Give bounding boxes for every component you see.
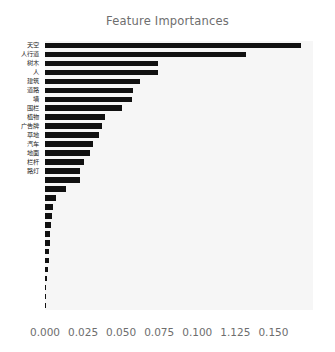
y-axis-label: 路灯: [27, 168, 39, 175]
bar: [45, 285, 46, 291]
chart-title: Feature Importances: [0, 14, 335, 28]
bar: [45, 123, 102, 129]
bar-row: [45, 195, 313, 201]
bar-row: [45, 303, 313, 309]
bar: [45, 204, 53, 210]
bar-row: [45, 222, 313, 228]
bar: [45, 303, 46, 309]
bar: [45, 267, 48, 273]
bar-row: [45, 240, 313, 246]
x-axis-tick: 0.025: [68, 326, 98, 338]
y-axis-label: 栏杆: [27, 159, 39, 166]
bar-row: [45, 70, 313, 76]
bar-row: [45, 79, 313, 85]
bar-row: [45, 186, 313, 192]
bar: [45, 195, 56, 201]
bar: [45, 79, 140, 85]
bar: [45, 258, 49, 264]
bar: [45, 231, 50, 237]
bar: [45, 132, 99, 138]
bar: [45, 52, 246, 58]
bar-row: [45, 177, 313, 183]
bar: [45, 186, 66, 192]
y-axis-label: 天空: [27, 42, 39, 49]
bar-row: [45, 123, 313, 129]
y-axis-label: 汽车: [27, 141, 39, 148]
bar-row: [45, 61, 313, 67]
y-axis-label: 植物: [27, 114, 39, 121]
bar-row: [45, 258, 313, 264]
x-axis-tick: 0.075: [144, 326, 174, 338]
bar-row: [45, 249, 313, 255]
bar: [45, 168, 80, 174]
bar-row: [45, 267, 313, 273]
bar: [45, 88, 133, 94]
bar: [45, 213, 52, 219]
bar: [45, 61, 158, 67]
bar-row: [45, 159, 313, 165]
plot-area: [45, 41, 313, 310]
feature-importances-chart: Feature Importances 天空人行道树木人建筑道路墙围栏植物广告牌…: [0, 0, 335, 352]
bar: [45, 222, 51, 228]
y-axis-label: 树木: [27, 60, 39, 67]
y-axis-label: 人行道: [21, 51, 39, 58]
bar: [45, 105, 122, 111]
x-axis-tick: 0.050: [106, 326, 136, 338]
bar: [45, 70, 158, 76]
bar-row: [45, 132, 313, 138]
y-axis-label: 围栏: [27, 105, 39, 112]
y-axis-label: 地面: [27, 150, 39, 157]
bar-row: [45, 294, 313, 300]
bar: [45, 43, 301, 49]
bar-row: [45, 114, 313, 120]
bar-row: [45, 141, 313, 147]
x-axis-tick: 0.150: [258, 326, 288, 338]
bar-row: [45, 105, 313, 111]
bar: [45, 177, 80, 183]
bar: [45, 141, 93, 147]
bar-row: [45, 168, 313, 174]
bar-row: [45, 52, 313, 58]
bar: [45, 159, 84, 165]
y-axis-label: 草地: [27, 132, 39, 139]
bar-row: [45, 43, 313, 49]
bar: [45, 150, 90, 156]
bar-row: [45, 204, 313, 210]
bar-row: [45, 150, 313, 156]
x-axis-tick-labels: 0.0000.0250.0500.0750.1001.1250.150: [0, 326, 335, 346]
x-axis-tick: 0.000: [30, 326, 60, 338]
y-axis-labels: 天空人行道树木人建筑道路墙围栏植物广告牌草地汽车地面栏杆路灯: [0, 41, 42, 310]
y-axis-label: 墙: [33, 96, 39, 103]
bar: [45, 114, 105, 120]
bar: [45, 294, 46, 300]
y-axis-label: 人: [33, 69, 39, 76]
bar: [45, 276, 47, 282]
y-axis-label: 广告牌: [21, 123, 39, 130]
bar-row: [45, 276, 313, 282]
bar: [45, 97, 132, 103]
bar-row: [45, 231, 313, 237]
x-axis-tick: 1.125: [220, 326, 250, 338]
y-axis-label: 建筑: [27, 78, 39, 85]
bar: [45, 240, 50, 246]
x-axis-tick: 0.100: [182, 326, 212, 338]
bar-row: [45, 213, 313, 219]
bar-row: [45, 97, 313, 103]
bar-row: [45, 88, 313, 94]
y-axis-label: 道路: [27, 87, 39, 94]
bar: [45, 249, 49, 255]
bar-row: [45, 285, 313, 291]
